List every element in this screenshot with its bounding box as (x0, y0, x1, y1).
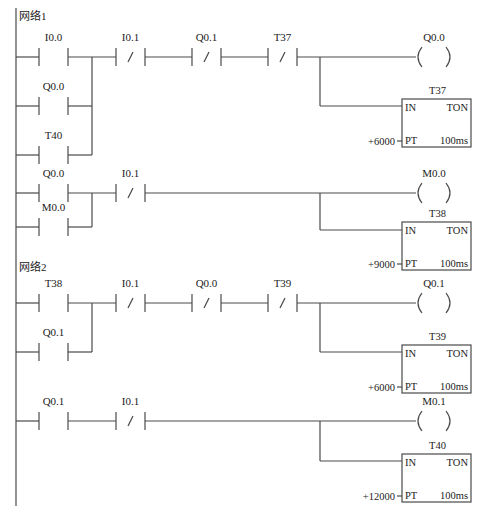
nc-slash-icon (128, 298, 133, 308)
ton-timer-block[interactable]: T37INTONPT100ms+6000 (368, 85, 471, 147)
nc-slash-icon (280, 298, 285, 308)
timer-pt-pin: PT (405, 490, 418, 501)
output-coil[interactable]: Q0.1 (418, 277, 450, 313)
timer-time-base: 100ms (440, 258, 468, 269)
timer-type: TON (447, 225, 469, 236)
timer-preset-value: +6000 (368, 136, 395, 147)
no-contact[interactable]: Q0.1 (39, 326, 68, 361)
contact-label: Q0.1 (43, 326, 65, 338)
nc-slash-icon (204, 298, 209, 308)
contact-label: M0.0 (42, 201, 66, 213)
no-contact[interactable]: Q0.0 (39, 80, 68, 115)
nc-slash-icon (128, 416, 133, 426)
timer-name: T37 (429, 85, 446, 96)
contact-label: I0.1 (122, 167, 139, 179)
timer-in-pin: IN (405, 457, 416, 468)
output-coil[interactable]: M0.1 (418, 395, 450, 431)
coil-label: Q0.1 (423, 277, 445, 289)
timer-preset-value: +12000 (363, 491, 395, 502)
nc-contact[interactable]: I0.1 (116, 395, 145, 430)
no-contact[interactable]: T38 (39, 277, 68, 312)
timer-type: TON (447, 348, 469, 359)
nc-contact[interactable]: Q0.0 (192, 277, 221, 312)
nc-contact[interactable]: I0.1 (116, 167, 145, 202)
timer-pt-pin: PT (405, 258, 418, 269)
contact-label: T40 (45, 129, 63, 141)
nc-slash-icon (280, 52, 285, 62)
ladder-diagram: 网络1网络2I0.0Q0.0T40I0.1Q0.1T37Q0.0M0.0I0.1… (0, 0, 486, 518)
timer-time-base: 100ms (440, 381, 468, 392)
output-coil[interactable]: Q0.0 (418, 31, 450, 67)
contact-label: T38 (45, 277, 63, 289)
timer-type: TON (447, 102, 469, 113)
nc-contact[interactable]: T37 (268, 31, 297, 66)
nc-contact[interactable]: I0.1 (116, 277, 145, 312)
nc-contact[interactable]: I0.1 (116, 31, 145, 66)
network-label: 网络2 (19, 260, 47, 273)
contact-label: T39 (274, 277, 292, 289)
contact-label: I0.0 (45, 31, 63, 43)
ton-timer-block[interactable]: T40INTONPT100ms+12000 (363, 440, 471, 502)
timer-type: TON (447, 457, 469, 468)
output-coil[interactable]: M0.0 (418, 167, 450, 203)
timer-preset-value: +9000 (368, 259, 395, 270)
contact-label: Q0.0 (196, 277, 218, 289)
timer-preset-value: +6000 (368, 382, 395, 393)
contact-label: T37 (274, 31, 292, 43)
nc-slash-icon (128, 188, 133, 198)
timer-in-pin: IN (405, 348, 416, 359)
contact-label: Q0.0 (43, 80, 65, 92)
contact-label: Q0.1 (196, 31, 218, 43)
coil-label: M0.0 (422, 167, 446, 179)
contact-label: Q0.0 (43, 167, 65, 179)
no-contact[interactable]: Q0.1 (39, 395, 68, 430)
timer-in-pin: IN (405, 102, 416, 113)
contact-label: I0.1 (122, 395, 139, 407)
timer-in-pin: IN (405, 225, 416, 236)
contact-label: I0.1 (122, 31, 139, 43)
coil-label: M0.1 (422, 395, 446, 407)
timer-time-base: 100ms (440, 135, 468, 146)
network-label: 网络1 (19, 9, 47, 22)
coil-label: Q0.0 (423, 31, 445, 43)
no-contact[interactable]: M0.0 (39, 201, 68, 236)
nc-contact[interactable]: Q0.1 (192, 31, 221, 66)
nc-slash-icon (204, 52, 209, 62)
nc-contact[interactable]: T39 (268, 277, 297, 312)
ton-timer-block[interactable]: T39INTONPT100ms+6000 (368, 331, 471, 393)
no-contact[interactable]: T40 (39, 129, 68, 164)
no-contact[interactable]: Q0.0 (39, 167, 68, 202)
contact-label: I0.1 (122, 277, 139, 289)
timer-name: T40 (429, 440, 446, 451)
timer-name: T39 (429, 331, 446, 342)
timer-pt-pin: PT (405, 135, 418, 146)
contact-label: Q0.1 (43, 395, 65, 407)
nc-slash-icon (128, 52, 133, 62)
timer-name: T38 (429, 208, 446, 219)
no-contact[interactable]: I0.0 (39, 31, 68, 66)
timer-pt-pin: PT (405, 381, 418, 392)
ton-timer-block[interactable]: T38INTONPT100ms+9000 (368, 208, 471, 270)
ladder-diagram-canvas: 网络1网络2I0.0Q0.0T40I0.1Q0.1T37Q0.0M0.0I0.1… (0, 0, 486, 518)
timer-time-base: 100ms (440, 490, 468, 501)
